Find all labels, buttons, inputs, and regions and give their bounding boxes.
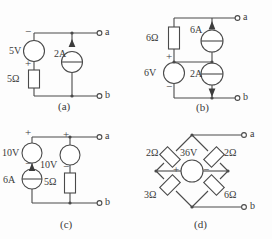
terminal-label-b: b: [105, 196, 110, 207]
polarity-minus-6v: −: [166, 80, 172, 92]
circuit-figure-sheet: 5V − + 5Ω 2A a b (a): [0, 0, 272, 239]
junction-node-b-right: [210, 60, 213, 63]
label-resistor-2ohm-top-left: 2Ω: [146, 147, 158, 158]
current-source-2a-arrow-icon: [69, 39, 76, 47]
terminal-b-marker[interactable]: [97, 94, 102, 99]
polarity-minus-36v: −: [203, 163, 209, 175]
label-resistor-5ohm: 5Ω: [7, 73, 19, 84]
circuit-d: 2Ω 2Ω 3Ω 6Ω 36V + − a b (d): [136, 119, 272, 239]
circuit-a: 5V − + 5Ω 2A a b (a): [0, 0, 136, 119]
polarity-plus-10v-left: +: [25, 126, 31, 138]
label-resistor-3ohm: 3Ω: [144, 189, 156, 200]
wire-top-right-lower-d: [220, 163, 228, 171]
polarity-minus-10v-left: −: [25, 157, 31, 169]
polarity-plus-36v: +: [173, 163, 179, 175]
label-resistor-5ohm: 5Ω: [44, 176, 56, 187]
resistor-5ohm-symbol: [29, 70, 40, 88]
label-current-source-2a: 2A: [54, 48, 66, 59]
polarity-plus-10v-right: +: [63, 128, 69, 140]
current-source-2a-arrow-icon: [209, 89, 216, 98]
voltage-source-36v-symbol: [181, 160, 203, 182]
terminal-label-a: a: [105, 26, 109, 37]
junction-node-c-bottom: [68, 201, 71, 204]
caption-c: (c): [60, 218, 72, 230]
junction-node-d-top: [190, 133, 193, 136]
terminal-label-b: b: [105, 89, 110, 100]
label-current-source-6a: 6A: [190, 24, 202, 35]
junction-node-b-bottom: [210, 96, 213, 99]
terminal-b-marker[interactable]: [97, 201, 102, 206]
terminal-b-marker[interactable]: [242, 205, 247, 210]
label-resistor-6ohm: 6Ω: [146, 32, 158, 43]
junction-node-a-top: [70, 31, 73, 34]
terminal-a-marker[interactable]: [235, 16, 240, 21]
terminal-label-a: a: [250, 128, 254, 139]
wire-bottom-right-lower-d: [192, 191, 208, 207]
label-voltage-source-10v-right: 10V: [40, 159, 57, 170]
resistor-6ohm-symbol: [169, 27, 180, 49]
terminal-label-b: b: [243, 91, 248, 102]
caption-d: (d): [194, 218, 207, 230]
caption-b: (b): [196, 101, 209, 113]
label-resistor-6ohm: 6Ω: [224, 189, 236, 200]
current-source-6a-arrow-icon: [209, 21, 216, 30]
label-voltage-source-10v-left: 10V: [2, 147, 19, 158]
terminal-a-marker[interactable]: [97, 135, 102, 140]
label-current-source-2a: 2A: [190, 68, 202, 79]
junction-node-a-bottom: [70, 94, 73, 97]
terminal-a-marker[interactable]: [242, 133, 247, 138]
resistor-5ohm-symbol: [65, 173, 76, 193]
circuit-b: 6Ω 6V + − 6A 2A a b (b): [136, 0, 272, 119]
label-voltage-source-36v: 36V: [180, 147, 197, 158]
caption-a: (a): [58, 100, 70, 112]
label-resistor-2ohm-top-right: 2Ω: [224, 147, 236, 158]
polarity-minus-5v: −: [25, 25, 31, 37]
wire-bottom-left-lower-d: [176, 191, 192, 207]
circuit-c: 10V + − 6A 10V + − 5Ω a b (c): [0, 119, 136, 239]
terminal-label-a: a: [105, 130, 109, 141]
junction-node-d-bottom: [190, 205, 193, 208]
polarity-minus-10v-right: −: [63, 160, 69, 172]
label-voltage-source-6v: 6V: [144, 67, 156, 78]
junction-node-b-left: [172, 60, 175, 63]
terminal-a-marker[interactable]: [97, 31, 102, 36]
terminal-label-a: a: [243, 11, 247, 22]
polarity-plus-5v: +: [25, 57, 31, 69]
wire-top-left-lower-d: [156, 163, 164, 171]
wire-bottom-right-upper-d: [220, 171, 228, 179]
label-voltage-source-5v: 5V: [9, 45, 21, 56]
label-current-source-6a: 6A: [3, 174, 15, 185]
junction-node-d-right: [226, 169, 229, 172]
junction-node-d-left: [154, 169, 157, 172]
wire-bottom-left-upper-d: [156, 171, 164, 179]
terminal-b-marker[interactable]: [235, 96, 240, 101]
terminal-label-b: b: [250, 200, 255, 211]
polarity-plus-6v: +: [166, 50, 172, 62]
